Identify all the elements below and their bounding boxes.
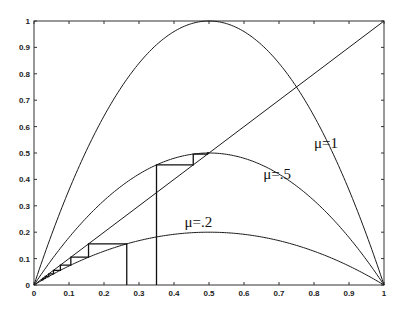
diagonal-line bbox=[34, 21, 384, 285]
curves bbox=[34, 21, 384, 285]
curve-label: μ=1 bbox=[314, 135, 338, 151]
x-tick-label: 0.6 bbox=[238, 289, 250, 298]
y-tick-label: 0.4 bbox=[19, 175, 31, 184]
x-tick-label: 0.7 bbox=[273, 289, 285, 298]
y-tick-label: 0.6 bbox=[19, 123, 31, 132]
curve-label: μ=.2 bbox=[185, 214, 213, 230]
x-tick-label: 0.3 bbox=[133, 289, 145, 298]
y-tick-label: 0.3 bbox=[19, 202, 31, 211]
x-tick-label: 0.5 bbox=[203, 289, 215, 298]
chart: 00.10.20.30.40.50.60.70.80.9100.10.20.30… bbox=[0, 0, 403, 314]
x-tick-label: 1 bbox=[382, 289, 387, 298]
curve-mu-0_2 bbox=[34, 232, 384, 285]
curve-label: μ=.5 bbox=[263, 166, 291, 182]
x-tick-label: 0.1 bbox=[63, 289, 75, 298]
x-tick-label: 0 bbox=[32, 289, 37, 298]
y-tick-label: 0.5 bbox=[19, 149, 31, 158]
labels: μ=1μ=.5μ=.2 bbox=[185, 135, 339, 230]
y-tick-label: 1 bbox=[26, 17, 31, 26]
y-tick-label: 0.9 bbox=[19, 43, 31, 52]
x-tick-label: 0.2 bbox=[98, 289, 110, 298]
y-tick-label: 0.1 bbox=[19, 255, 31, 264]
x-tick-label: 0.9 bbox=[343, 289, 355, 298]
x-tick-label: 0.4 bbox=[168, 289, 180, 298]
y-tick-label: 0.2 bbox=[19, 228, 31, 237]
y-tick-label: 0 bbox=[26, 281, 31, 290]
cobweb-mu-0_2 bbox=[41, 244, 127, 285]
y-tick-label: 0.8 bbox=[19, 70, 31, 79]
x-tick-label: 0.8 bbox=[308, 289, 320, 298]
y-tick-label: 0.7 bbox=[19, 96, 31, 105]
